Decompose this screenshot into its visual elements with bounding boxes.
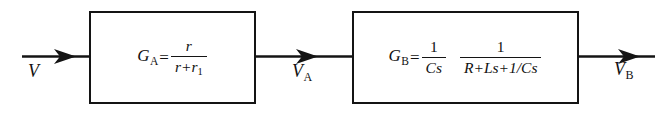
fraction-a: r r+r1 (171, 38, 207, 76)
gain-block-b-formula: GB = 1 Cs 1 R+Ls+1/Cs (389, 39, 543, 76)
output-signal-label-vb-subscript: B (626, 68, 634, 82)
gain-symbol-a: GA (137, 47, 159, 67)
gain-symbol-b: GB (389, 47, 410, 67)
fraction-b2-numerator: 1 (493, 39, 509, 56)
gain-symbol-a-letter: G (137, 46, 149, 65)
gain-symbol-b-letter: G (389, 46, 401, 65)
equals-sign-a: = (159, 49, 169, 66)
input-signal-label-v: V (28, 62, 40, 83)
fraction-a-numerator: r (182, 38, 196, 55)
intermediate-signal-label-va-subscript: A (304, 70, 313, 84)
fraction-a-den-subscript: 1 (198, 66, 203, 77)
fraction-a-den-plus: + (181, 58, 191, 75)
output-signal-label-vb: VB (614, 60, 634, 81)
equals-sign-b: = (410, 49, 420, 66)
gain-symbol-a-subscript: A (150, 55, 158, 67)
intermediate-signal-label-va: VA (292, 62, 312, 83)
gain-block-a-formula: GA = r r+r1 (137, 38, 208, 76)
block-diagram: GA = r r+r1 GB = 1 Cs 1 R+Ls+1/Cs V VA V… (0, 0, 668, 117)
gain-block-b: GB = 1 Cs 1 R+Ls+1/Cs (352, 11, 579, 104)
fraction-b2: 1 R+Ls+1/Cs (460, 39, 541, 76)
fraction-b1: 1 Cs (422, 39, 446, 76)
gain-block-a: GA = r r+r1 (89, 11, 256, 104)
fraction-b1-numerator: 1 (426, 39, 442, 56)
fraction-b1-denominator: Cs (422, 57, 446, 76)
fraction-a-denominator: r+r1 (171, 56, 207, 77)
gain-symbol-b-subscript: B (401, 55, 409, 67)
intermediate-signal-label-va-symbol: V (292, 61, 303, 81)
input-signal-label-v-symbol: V (28, 61, 39, 81)
fraction-b2-denominator: R+Ls+1/Cs (460, 57, 541, 76)
output-signal-label-vb-symbol: V (614, 59, 625, 79)
